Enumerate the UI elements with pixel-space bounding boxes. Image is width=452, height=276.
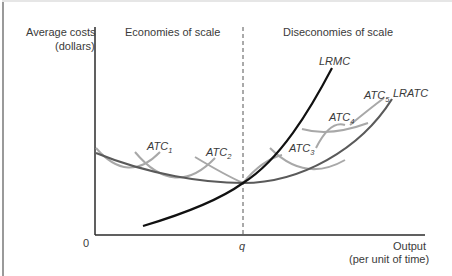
atc5-curve xyxy=(350,98,384,125)
atc4-curve xyxy=(316,124,345,148)
atc2-curve xyxy=(135,152,215,178)
y-axis-label-line1: Average costs xyxy=(26,26,96,39)
region-label-diseconomies: Diseconomies of scale xyxy=(283,26,393,39)
x-axis-label-line2: (per unit of time) xyxy=(349,253,429,266)
x-axis-label-line1: Output xyxy=(393,240,426,253)
lratc-label: LRATC xyxy=(393,87,428,99)
lrmc-label: LRMC xyxy=(319,55,350,67)
diagram-frame: ATC1 ATC2 ATC3 ATC4 ATC5 LRATC LRMC Aver… xyxy=(0,0,452,276)
y-axis-label-line2: (dollars) xyxy=(55,40,95,53)
atc3-label: ATC3 xyxy=(288,142,315,157)
atc2-label: ATC2 xyxy=(205,146,232,161)
region-label-economies: Economies of scale xyxy=(125,26,220,39)
q-label: q xyxy=(239,240,245,253)
atc5-label: ATC5 xyxy=(363,89,390,104)
origin-label: 0 xyxy=(83,237,89,250)
